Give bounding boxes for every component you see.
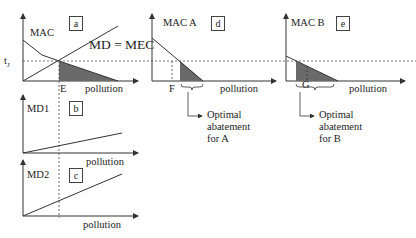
annotation-a: Optimal abatement for A — [207, 109, 250, 145]
panel-d-xlabel: pollution — [220, 84, 258, 95]
mac-b-label: MAC B — [291, 18, 325, 29]
md2-label: MD2 — [27, 170, 49, 181]
mac-label: MAC — [30, 28, 54, 39]
mac-a-line — [152, 38, 203, 81]
panel-e-xlabel: pollution — [349, 84, 387, 95]
panel-b-xlabel: pollution — [86, 157, 124, 168]
annotation-a-line1: Optimal — [207, 109, 250, 121]
panel-d-box: d — [211, 16, 225, 31]
md-mec-label: MD = MEC — [89, 38, 154, 52]
md1-label: MD1 — [27, 104, 49, 115]
panel-b-box: b — [69, 101, 83, 116]
panel-c-xlabel: pollution — [83, 220, 121, 231]
annotation-b: Optimal abatement for B — [319, 109, 362, 145]
annotation-b-line2: abatement — [319, 121, 362, 133]
f-label: F — [169, 84, 175, 95]
md1-line — [23, 133, 122, 153]
g-label: G — [302, 80, 310, 91]
panel-a-xlabel: pollution — [85, 84, 123, 95]
panel-e-box: e — [336, 16, 350, 31]
annotation-a-line3: for A — [207, 133, 250, 145]
tj-label: tJ — [4, 56, 10, 69]
annotation-b-line1: Optimal — [319, 109, 362, 121]
panel-a-box: a — [69, 16, 83, 31]
brace-a — [181, 84, 203, 90]
arrow-b — [300, 92, 314, 116]
arrow-a — [188, 92, 202, 116]
e-label: E — [60, 84, 66, 95]
mac-a-label: MAC A — [163, 18, 197, 29]
annotation-b-line3: for B — [319, 133, 362, 145]
annotation-a-line2: abatement — [207, 121, 250, 133]
panel-c-box: c — [69, 168, 83, 183]
